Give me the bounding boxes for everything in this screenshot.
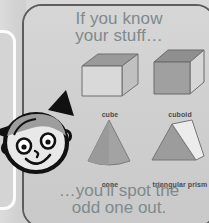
- shape-label-cuboid: cuboid: [146, 111, 209, 118]
- heading-line-2: your stuff…: [24, 27, 209, 44]
- footer-line-2: odd one out.: [24, 199, 209, 216]
- triangular-prism-shape-icon: [146, 118, 209, 170]
- cuboid-shape-icon: [146, 48, 209, 100]
- worksheet-graphic: If you know your stuff… cube: [0, 0, 209, 223]
- right-pupil-icon: [45, 139, 50, 144]
- card-heading: If you know your stuff…: [24, 10, 209, 44]
- heading-line-1: If you know: [24, 10, 209, 27]
- right-pigtail-icon: [48, 90, 74, 116]
- card-footer: …you'll spot the odd one out.: [24, 182, 209, 216]
- left-pupil-icon: [21, 144, 26, 149]
- shape-grid: cube cuboid cone: [76, 48, 209, 186]
- shape-item-triangular-prism: triangular prism: [146, 118, 209, 186]
- girl-character: [0, 88, 88, 180]
- footer-line-1: …you'll spot the: [24, 182, 209, 199]
- shape-item-cuboid: cuboid: [146, 48, 209, 116]
